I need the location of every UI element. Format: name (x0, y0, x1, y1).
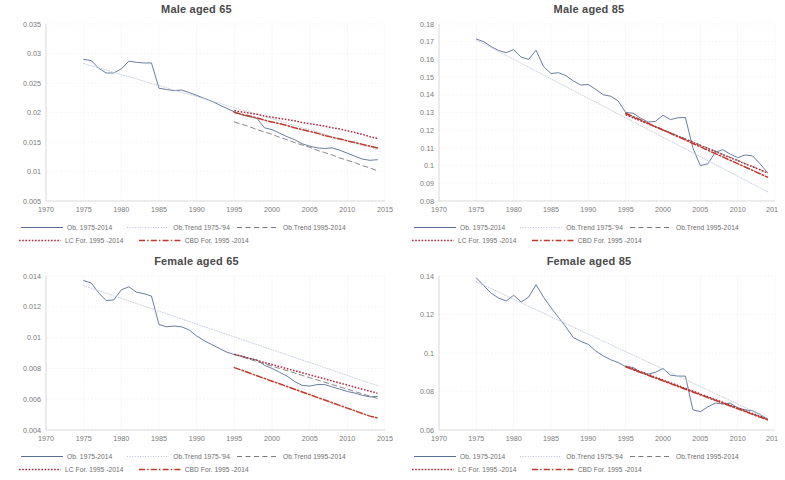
x-tick-label: 1975 (76, 434, 92, 443)
y-tick-label: 0.16 (420, 55, 434, 64)
panel-title: Male aged 65 (0, 0, 393, 18)
legend-item-cbd-forecast[interactable]: CBD For. 1995 -2014 (531, 466, 642, 473)
legend-item-obs-trend-early[interactable]: Ob.Trend 1975-'94 (126, 224, 230, 231)
legend-item-lc-forecast[interactable]: LC For. 1995 -2014 (411, 237, 517, 244)
x-tick-label: 1990 (189, 434, 205, 443)
series-line-dash-dot (626, 113, 768, 177)
legend-swatch-lc-forecast (18, 237, 62, 244)
legend-row: Ob. 1975-2014Ob.Trend 1975-'94Ob.Trend 1… (8, 221, 389, 234)
y-tick-label: 0.11 (421, 144, 434, 153)
y-tick-label: 0.14 (420, 272, 434, 281)
x-tick-label: 2000 (655, 434, 671, 443)
legend-item-lc-forecast[interactable]: LC For. 1995 -2014 (18, 237, 124, 244)
x-tick-label: 1980 (113, 205, 129, 214)
y-tick-label: 0.015 (23, 138, 41, 147)
legend-label: LC For. 1995 -2014 (62, 466, 124, 473)
plot-area-female-65: 0.0040.0060.0080.010.0120.01419701975198… (0, 270, 393, 452)
x-tick-label: 2010 (339, 434, 355, 443)
y-tick-label: 0.12 (420, 126, 434, 135)
series-line-dash-dot (626, 367, 768, 420)
legend-item-obs-trend-early[interactable]: Ob.Trend 1975-'94 (519, 224, 623, 231)
legend-label: Ob.Trend 1975-'94 (170, 224, 230, 231)
legend-swatch-obs-trend-late (629, 453, 673, 460)
legend-item-observed[interactable]: Ob. 1975-2014 (20, 224, 112, 231)
legend-swatch-observed (20, 453, 64, 460)
x-tick-label: 1980 (506, 205, 522, 214)
legend-swatch-obs-trend-early (126, 453, 170, 460)
x-tick-label: 1985 (151, 434, 167, 443)
legend-label: Ob.Trend 1995-2014 (673, 224, 739, 231)
legend-label: LC For. 1995 -2014 (455, 237, 517, 244)
x-tick-label: 1975 (468, 205, 484, 214)
x-tick-label: 1990 (580, 205, 596, 214)
legend-label: Ob. 1975-2014 (64, 224, 112, 231)
x-tick-label: 201 (766, 205, 778, 214)
x-tick-label: 1995 (618, 434, 634, 443)
legend-row: LC For. 1995 -2014CBD For. 1995 -2014 (8, 234, 389, 247)
legend-item-obs-trend-late[interactable]: Ob.Trend 1995-2014 (236, 453, 346, 460)
legend-label: Ob.Trend 1995-2014 (673, 453, 739, 460)
legend-swatch-lc-forecast (18, 466, 62, 473)
legend-label: Ob.Trend 1975-'94 (563, 453, 623, 460)
legend-label: Ob.Trend 1995-2014 (280, 224, 346, 231)
legend-item-obs-trend-late[interactable]: Ob.Trend 1995-2014 (236, 224, 346, 231)
panel-title: Female aged 65 (0, 252, 393, 270)
legend-label: Ob. 1975-2014 (457, 224, 505, 231)
series-line-solid (84, 281, 378, 397)
legend-row: Ob. 1975-2014Ob.Trend 1975-'94Ob.Trend 1… (401, 221, 781, 234)
legend-item-lc-forecast[interactable]: LC For. 1995 -2014 (18, 466, 124, 473)
x-tick-label: 2010 (730, 434, 746, 443)
chart-svg: 0.080.090.10.110.120.130.140.150.160.170… (393, 18, 785, 223)
x-tick-label: 2005 (692, 205, 708, 214)
legend-label: Ob.Trend 1975-'94 (170, 453, 230, 460)
legend-item-obs-trend-late[interactable]: Ob.Trend 1995-2014 (629, 453, 739, 460)
x-tick-label: 2000 (264, 205, 280, 214)
chart-svg: 0.060.080.10.120.14197019751980198519901… (393, 270, 785, 452)
legend-item-cbd-forecast[interactable]: CBD For. 1995 -2014 (531, 237, 642, 244)
x-tick-label: 2005 (302, 205, 318, 214)
legend-swatch-observed (413, 453, 457, 460)
legend-item-obs-trend-late[interactable]: Ob.Trend 1995-2014 (629, 224, 739, 231)
legend-label: Ob.Trend 1995-2014 (280, 453, 346, 460)
legend-swatch-obs-trend-late (236, 453, 280, 460)
y-tick-label: 0.12 (420, 310, 434, 319)
legend-item-observed[interactable]: Ob. 1975-2014 (413, 224, 505, 231)
legend-item-cbd-forecast[interactable]: CBD For. 1995 -2014 (138, 466, 249, 473)
legend-label: LC For. 1995 -2014 (455, 466, 517, 473)
series-line-solid (476, 278, 767, 419)
plot-area-female-85: 0.060.080.10.120.14197019751980198519901… (393, 270, 785, 452)
legend-swatch-cbd-forecast (531, 466, 575, 473)
legend-male-85: Ob. 1975-2014Ob.Trend 1975-'94Ob.Trend 1… (401, 221, 781, 247)
series-line-fine-dot (476, 40, 767, 192)
x-tick-label: 2005 (302, 434, 318, 443)
legend-item-cbd-forecast[interactable]: CBD For. 1995 -2014 (138, 237, 249, 244)
legend-swatch-cbd-forecast (531, 237, 575, 244)
y-tick-label: 0.14 (420, 90, 434, 99)
legend-item-obs-trend-early[interactable]: Ob.Trend 1975-'94 (519, 453, 623, 460)
legend-item-observed[interactable]: Ob. 1975-2014 (20, 453, 112, 460)
legend-label: Ob.Trend 1975-'94 (563, 224, 623, 231)
panel-male-85: Male aged 85 0.080.090.10.110.120.130.14… (393, 0, 785, 252)
y-tick-label: 0.025 (23, 79, 41, 88)
legend-row: LC For. 1995 -2014CBD For. 1995 -2014 (8, 463, 389, 476)
y-tick-label: 0.09 (420, 179, 434, 188)
y-tick-label: 0.13 (420, 108, 434, 117)
legend-item-obs-trend-early[interactable]: Ob.Trend 1975-'94 (126, 453, 230, 460)
legend-row: LC For. 1995 -2014CBD For. 1995 -2014 (401, 463, 781, 476)
x-tick-label: 1970 (431, 434, 447, 443)
y-tick-label: 0.08 (420, 387, 434, 396)
x-tick-label: 2000 (264, 434, 280, 443)
legend-label: Ob. 1975-2014 (64, 453, 112, 460)
x-tick-label: 2010 (730, 205, 746, 214)
legend-item-observed[interactable]: Ob. 1975-2014 (413, 453, 505, 460)
legend-label: Ob. 1975-2014 (457, 453, 505, 460)
y-tick-label: 0.01 (27, 167, 41, 176)
legend-item-lc-forecast[interactable]: LC For. 1995 -2014 (411, 466, 517, 473)
y-tick-label: 0.02 (27, 108, 41, 117)
legend-swatch-observed (20, 224, 64, 231)
series-line-fine-dot (84, 286, 378, 386)
y-tick-label: 0.18 (420, 20, 434, 29)
y-tick-label: 0.1 (424, 161, 434, 170)
panel-title: Male aged 85 (393, 0, 785, 18)
legend-swatch-obs-trend-early (519, 453, 563, 460)
